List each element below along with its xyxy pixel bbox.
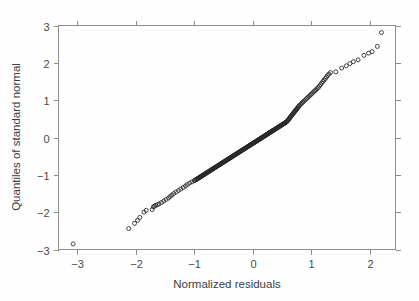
data-point [379,31,383,35]
data-point [362,53,366,57]
y-axis-title: Quantiles of standard normal [10,63,22,211]
x-axis-ticks [78,250,371,255]
y-tick-label: 3 [43,21,49,33]
data-point [370,50,374,54]
data-point [340,66,344,70]
data-point [375,44,379,48]
x-tick-label: 0 [250,258,256,270]
plot-frame [59,26,396,250]
y-tick-label: −3 [37,245,50,257]
right-axis-ticks [396,27,401,251]
scatter-points-group [71,31,383,246]
x-axis-title: Normalized residuals [173,278,281,290]
y-tick-label: 2 [43,58,49,70]
x-tick-label: 2 [367,258,373,270]
x-axis-tick-labels: −3−2−1012 [71,258,373,270]
y-tick-label: 1 [43,95,49,107]
y-tick-label: −2 [37,207,50,219]
data-point [334,70,338,74]
y-tick-label: −1 [37,170,50,182]
data-point [351,60,355,64]
y-tick-label: 0 [43,133,49,145]
x-tick-label: −2 [130,258,143,270]
qq-plot-figure: −3−2−1012 −3−2−10123 Normalized residual… [0,0,419,301]
y-axis-ticks [54,27,59,251]
data-point [356,58,360,62]
y-axis-tick-labels: −3−2−10123 [37,21,50,257]
data-point [127,227,131,231]
x-tick-label: −1 [188,258,201,270]
data-point [138,215,142,219]
data-point [71,242,75,246]
x-tick-label: −3 [71,258,84,270]
x-tick-label: 1 [308,258,314,270]
top-axis-ticks [78,21,371,26]
plot-canvas: −3−2−1012 −3−2−10123 Normalized residual… [0,0,419,301]
